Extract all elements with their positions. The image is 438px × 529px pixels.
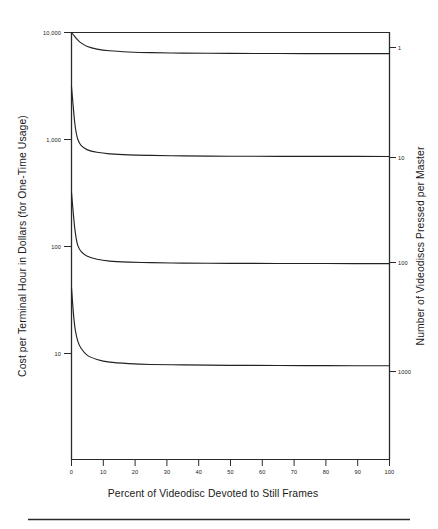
x-axis-tick-labels: 0 10 20 30 40 50 60 70 80 90 100 [70,469,395,475]
y2tick-label-100: 100 [398,260,408,266]
y2-axis-title: Number of Videodiscs Pressed per Master [415,146,426,345]
x-axis-ticks [72,460,390,466]
y2tick-label-1000: 1000 [398,369,411,375]
right-axis-tick-labels: 1 10 100 1000 [398,45,411,375]
xtick-label-10: 10 [100,469,107,475]
xtick-label-90: 90 [354,469,361,475]
left-axis-tick-labels: 10,000 1,000 100 10 [43,30,61,357]
y2tick-label-1: 1 [398,45,401,51]
y2tick-label-10: 10 [398,155,405,161]
xtick-label-40: 40 [195,469,202,475]
xtick-label-100: 100 [385,469,395,475]
ytick-label-100: 100 [51,244,61,250]
left-axis-ticks [64,33,71,354]
curve-series-10 [72,87,390,157]
xtick-label-70: 70 [291,469,298,475]
line-chart: 10,000 1,000 100 10 1 10 100 1000 [0,0,438,529]
ytick-label-10000: 10,000 [43,30,61,36]
xtick-label-80: 80 [323,469,330,475]
xtick-label-60: 60 [259,469,266,475]
x-axis-title: Percent of Videodisc Devoted to Still Fr… [108,488,318,499]
xtick-label-50: 50 [227,469,234,475]
ytick-label-1000: 1,000 [46,137,61,143]
xtick-label-20: 20 [132,469,139,475]
figure-container: 10,000 1,000 100 10 1 10 100 1000 [0,0,438,529]
data-curves [72,33,390,366]
ytick-label-10: 10 [54,351,61,357]
xtick-label-30: 30 [164,469,171,475]
y-axis-title: Cost per Terminal Hour in Dollars (for O… [17,115,28,377]
curve-series-1 [72,33,390,54]
curve-series-1000 [72,288,390,366]
plot-frame [71,32,390,460]
xtick-label-0: 0 [70,469,73,475]
right-axis-ticks [390,48,396,372]
curve-series-100 [72,192,390,263]
